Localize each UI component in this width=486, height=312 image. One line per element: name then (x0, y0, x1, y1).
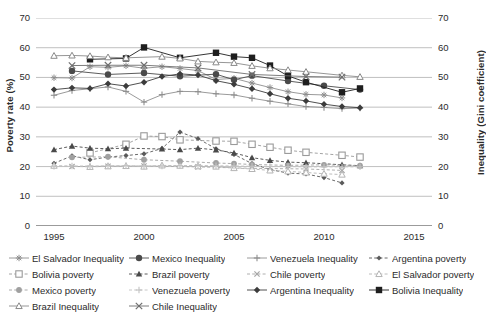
y-tick-left-30: 30 (6, 131, 30, 142)
y-tick-right-0: 0 (438, 220, 462, 231)
chart-legend: El Salvador InequalityMexico InequalityV… (8, 250, 480, 312)
circle-grey-icon (8, 284, 30, 296)
x-tick-2000: 2000 (122, 231, 166, 242)
legend-item-label: Bolivia Inequality (392, 285, 463, 296)
x-tick-2010: 2010 (302, 231, 346, 242)
plot-area (36, 18, 432, 226)
legend-item-bolivia-inequality[interactable]: Bolivia Inequality (368, 282, 480, 298)
legend-item-brazil-inequality[interactable]: Brazil Inequality (8, 298, 128, 312)
y-tick-right-40: 40 (438, 101, 462, 112)
y-tick-right-70: 70 (438, 12, 462, 23)
legend-item-chile-inequality[interactable]: Chile Inequality (128, 298, 246, 312)
legend-item-venezuela-poverty[interactable]: Venezuela poverty (128, 282, 246, 298)
triangle-icon (128, 268, 150, 280)
chart-canvas (36, 18, 432, 226)
legend-item-label: El Salvador Inequality (32, 253, 124, 264)
plus-light-icon (128, 284, 150, 296)
square-icon (368, 284, 390, 296)
legend-item-label: Argentina poverty (392, 253, 466, 264)
legend-item-label: Venezuela poverty (152, 285, 230, 296)
x-small-icon (246, 268, 268, 280)
legend-item-label: Chile Inequality (152, 301, 217, 312)
legend-item-label: Mexico poverty (32, 285, 96, 296)
legend-item-label: El Salvador poverty (392, 269, 474, 280)
y-tick-right-20: 20 (438, 161, 462, 172)
legend-item-label: Argentina Inequality (270, 285, 354, 296)
x-tick-2005: 2005 (212, 231, 256, 242)
series-argentina-poverty (51, 130, 344, 186)
right-axis-title: Inequality (Gini coefficient) (475, 33, 486, 193)
y-tick-left-10: 10 (6, 190, 30, 201)
y-tick-left-40: 40 (6, 101, 30, 112)
y-tick-left-0: 0 (6, 220, 30, 231)
legend-item-label: Brazil poverty (152, 269, 210, 280)
legend-item-mexico-inequality[interactable]: Mexico Inequality (128, 250, 246, 266)
legend-item-el-salvador-poverty[interactable]: El Salvador poverty (368, 266, 480, 282)
x-tick-1995: 1995 (32, 231, 76, 242)
legend-item-venezuela-inequality[interactable]: Venezuela Inequality (246, 250, 368, 266)
y-tick-right-50: 50 (438, 71, 462, 82)
triangle-open-icon (368, 268, 390, 280)
y-tick-left-50: 50 (6, 71, 30, 82)
square-open-icon (8, 268, 30, 280)
legend-item-label: Bolivia poverty (32, 269, 94, 280)
legend-item-label: Venezuela Inequality (270, 253, 358, 264)
legend-item-el-salvador-inequality[interactable]: El Salvador Inequality (8, 250, 128, 266)
y-tick-right-30: 30 (438, 131, 462, 142)
legend-item-argentina-inequality[interactable]: Argentina Inequality (246, 282, 368, 298)
y-tick-left-20: 20 (6, 161, 30, 172)
legend-item-brazil-poverty[interactable]: Brazil poverty (128, 266, 246, 282)
series-venezuela-inequality (51, 84, 363, 112)
x-tick-2015: 2015 (392, 231, 436, 242)
legend-item-mexico-poverty[interactable]: Mexico poverty (8, 282, 128, 298)
circle-icon (128, 252, 150, 264)
y-tick-right-60: 60 (438, 42, 462, 53)
diamond-icon (246, 284, 268, 296)
y-tick-right-10: 10 (438, 190, 462, 201)
legend-item-label: Chile poverty (270, 269, 325, 280)
triangle-open-lt-icon (8, 300, 30, 312)
asterisk-icon (8, 252, 30, 264)
plus-icon (246, 252, 268, 264)
y-tick-left-60: 60 (6, 42, 30, 53)
x-icon (128, 300, 150, 312)
legend-item-argentina-poverty[interactable]: Argentina poverty (368, 250, 480, 266)
legend-item-label: Brazil Inequality (32, 301, 99, 312)
diamond-small-icon (368, 252, 390, 264)
series-brazil-poverty (51, 143, 363, 168)
y-tick-left-70: 70 (6, 12, 30, 23)
legend-item-bolivia-poverty[interactable]: Bolivia poverty (8, 266, 128, 282)
legend-item-chile-poverty[interactable]: Chile poverty (246, 266, 368, 282)
legend-item-label: Mexico Inequality (152, 253, 225, 264)
